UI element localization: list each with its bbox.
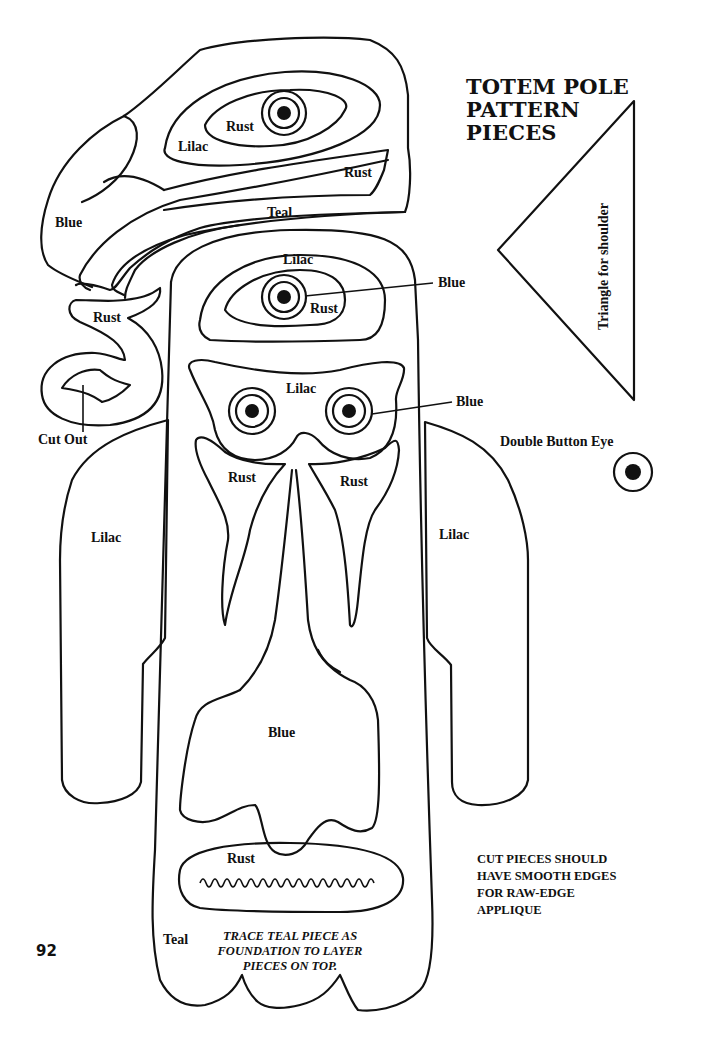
right-arm-lilac [425,422,528,805]
label-hook-rust: Rust [93,310,121,325]
note-line-2: HAVE SMOOTH EDGES [477,868,616,885]
trace-line-2: FOUNDATION TO LAYER [210,944,370,959]
pattern-page: Rust Lilac Rust Blue Teal Lilac Rust Blu… [0,0,703,1042]
title-line-3: PIECES [466,121,629,144]
cheek-right-rust [309,441,399,627]
label-mask-lilac: Lilac [286,381,316,396]
label-cheek-right-rust: Rust [340,474,368,489]
label-cut-out: Cut Out [38,432,88,447]
shoulder-triangle [498,101,634,400]
mouth-teeth [200,879,374,887]
label-base-teal: Teal [163,932,188,947]
double-button-eye-pupil [625,464,641,480]
upper-face-lilac [199,255,385,342]
hook-rust-outline [42,288,163,425]
mask-left-eye-pupil [245,404,259,418]
swoosh-2 [112,212,405,295]
note-line-4: APPLIQUE [477,902,616,919]
label-bird-lilac: Lilac [178,139,208,154]
label-bird-teal: Teal [267,205,292,220]
label-double-button-eye: Double Button Eye [500,434,614,449]
bird-eye-pupil [277,106,291,120]
page-title: TOTEM POLE PATTERN PIECES [466,75,629,144]
title-line-2: PATTERN [466,98,629,121]
upper-eye-pupil [277,290,291,304]
trace-line-1: TRACE TEAL PIECE AS [210,929,370,944]
nose-center [240,470,292,690]
mask-eye-leader [372,402,452,414]
label-bird-eye-rust: Rust [226,119,254,134]
label-upper-face-lilac: Lilac [283,252,313,267]
label-body-blue: Blue [268,725,295,740]
label-right-arm-lilac: Lilac [439,527,469,542]
label-cheek-left-rust: Rust [228,470,256,485]
label-mask-eye-blue: Blue [456,394,483,409]
label-upper-eye-blue: Blue [438,275,465,290]
nose-center-right [296,470,340,672]
cut-out-shape [62,370,130,402]
cheek-left-rust [196,437,285,625]
note-line-3: FOR RAW-EDGE [477,885,616,902]
pole-outline [153,230,433,1011]
trace-line-3: PIECES ON TOP. [210,959,370,974]
trace-teal-note: TRACE TEAL PIECE AS FOUNDATION TO LAYER … [210,929,370,974]
label-mouth-rust: Rust [227,851,255,866]
label-left-arm-lilac: Lilac [91,530,121,545]
label-upper-face-rust: Rust [310,301,338,316]
label-triangle: Triangle for shoulder [596,203,611,330]
label-bird-beak-rust: Rust [344,165,372,180]
title-line-1: TOTEM POLE [466,75,629,98]
page-number: 92 [36,942,57,960]
left-arm-lilac [60,420,168,803]
mask-right-eye-pupil [342,404,356,418]
note-line-1: CUT PIECES SHOULD [477,851,616,868]
body-blue [180,650,379,855]
bird-beak-rust [164,150,388,210]
smooth-edges-note: CUT PIECES SHOULD HAVE SMOOTH EDGES FOR … [477,851,616,919]
label-bird-blue: Blue [55,215,82,230]
beak-divider [82,116,137,202]
upper-eye-leader [305,283,433,296]
